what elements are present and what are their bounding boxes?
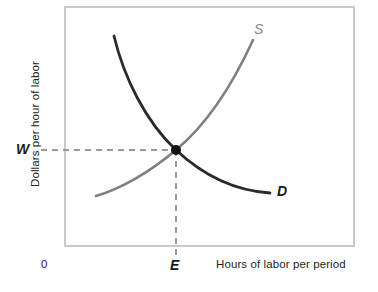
equilibrium-wage-label: W <box>16 141 29 157</box>
x-axis-label: Hours of labor per period <box>216 258 346 270</box>
plot-area-frame <box>64 6 355 247</box>
labor-market-supply-demand-chart: Dollars per hour of labor Hours of labor… <box>0 0 378 292</box>
y-axis-label: Dollars per hour of labor <box>29 24 41 224</box>
origin-label: 0 <box>41 258 47 270</box>
supply-curve-label: S <box>254 21 263 37</box>
demand-curve-label: D <box>277 183 287 199</box>
equilibrium-quantity-label: E <box>170 257 179 273</box>
